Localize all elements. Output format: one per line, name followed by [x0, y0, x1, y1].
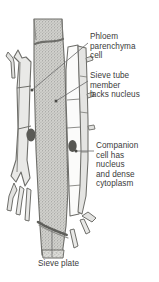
cell-wall-protrusions-upper — [6, 52, 15, 78]
sieve-tube-member — [34, 19, 68, 255]
label-companion-cell: Companion cell has nucleus and dense cyt… — [96, 141, 158, 189]
phloem-diagram-figure: Phloem parenchyma cell Sieve tube member… — [0, 0, 159, 282]
cell-wall-protrusions-lower — [7, 183, 31, 221]
label-phloem-parenchyma-cell: Phloem parenchyma cell — [90, 32, 158, 61]
label-sieve-tube-member: Sieve tube member lacks nucleus — [90, 71, 158, 100]
sieve-tube-lower-continuation — [42, 250, 64, 258]
label-sieve-plate: Sieve plate — [38, 259, 128, 269]
parenchyma-nucleus — [26, 129, 35, 142]
